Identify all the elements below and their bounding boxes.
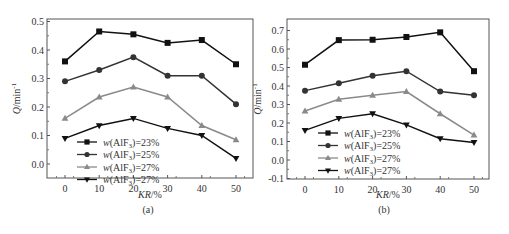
panel-caption: (b) — [378, 204, 390, 216]
circle-marker-icon — [437, 89, 443, 95]
circle-marker-icon — [370, 73, 376, 79]
triangle-down-marker-icon — [62, 136, 69, 142]
circle-marker-icon — [471, 92, 477, 98]
y-tick-label: 0.0 — [32, 159, 45, 170]
series-line — [65, 31, 236, 64]
figure: 0.00.10.20.30.40.501020304050KR/%Q/min-1… — [0, 0, 509, 234]
square-marker-icon — [336, 37, 342, 43]
series-line — [305, 71, 474, 95]
legend-entry: w(AlF3)=27% — [103, 174, 159, 187]
y-tick-label: 0.1 — [272, 136, 285, 147]
circle-marker-icon — [96, 67, 102, 73]
circle-marker-icon — [62, 78, 68, 84]
legend-entry: w(AlF3)=27% — [103, 162, 159, 175]
y-axis-label: Q/min-1 — [10, 82, 22, 114]
circle-marker-icon — [233, 101, 239, 107]
legend: w(AlF3)=23%w(AlF3)=25%w(AlF3)=27%w(AlF3)… — [318, 128, 400, 179]
chart-panel-b: -0.10.00.10.20.30.40.50.60.701020304050K… — [251, 19, 489, 216]
y-tick-label: 0.6 — [272, 44, 285, 55]
y-tick-label: 0.4 — [272, 81, 285, 92]
y-tick-label: 0.3 — [32, 73, 45, 84]
y-tick-label: 0.4 — [32, 45, 45, 56]
square-marker-icon — [302, 62, 308, 68]
legend: w(AlF3)=23%w(AlF3)=25%w(AlF3)=27%w(AlF3)… — [77, 137, 159, 188]
circle-marker-icon — [130, 54, 136, 60]
x-tick-label: 0 — [63, 183, 68, 194]
legend-entry: w(AlF3)=25% — [344, 140, 400, 153]
legend-entry: w(AlF3)=25% — [103, 149, 159, 162]
legend-entry: w(AlF3)=23% — [344, 128, 400, 141]
y-tick-label: 0.0 — [272, 155, 285, 166]
series-line — [305, 32, 474, 71]
square-marker-icon — [96, 28, 102, 34]
circle-marker-icon — [403, 68, 409, 74]
y-tick-label: 0.3 — [272, 99, 285, 110]
x-tick-label: 50 — [231, 183, 241, 194]
circle-marker-icon — [165, 73, 171, 79]
square-marker-icon — [437, 29, 443, 35]
triangle-down-marker-icon — [198, 133, 205, 139]
y-tick-label: 0.5 — [272, 62, 285, 73]
square-marker-icon — [199, 37, 205, 43]
triangle-down-marker-icon — [233, 156, 240, 162]
chart-panel-a: 0.00.10.20.30.40.501020304050KR/%Q/min-1… — [10, 16, 253, 216]
circle-marker-icon — [199, 73, 205, 79]
y-axis-label: Q/min-1 — [251, 83, 263, 115]
circle-marker-icon — [325, 143, 330, 148]
x-tick-label: 50 — [469, 184, 479, 195]
y-tick-label: 0.2 — [32, 102, 45, 113]
circle-marker-icon — [302, 88, 308, 94]
triangle-down-marker-icon — [471, 140, 478, 146]
x-tick-label: 10 — [334, 184, 344, 195]
x-axis-label: KR/% — [137, 189, 162, 200]
x-tick-label: 30 — [163, 183, 173, 194]
legend-entry: w(AlF3)=27% — [344, 165, 400, 178]
triangle-up-marker-icon — [130, 83, 137, 89]
circle-marker-icon — [336, 80, 342, 86]
y-tick-label: 0.1 — [32, 130, 45, 141]
triangle-down-marker-icon — [302, 128, 309, 134]
x-tick-label: 40 — [435, 184, 445, 195]
x-tick-label: 0 — [303, 184, 308, 195]
x-tick-label: 30 — [401, 184, 411, 195]
y-tick-label: 0.2 — [272, 118, 285, 129]
legend-entry: w(AlF3)=23% — [103, 137, 159, 150]
square-marker-icon — [62, 58, 68, 64]
panel-caption: (a) — [142, 204, 153, 216]
square-marker-icon — [370, 37, 376, 43]
series-line — [65, 87, 236, 140]
triangle-up-marker-icon — [403, 88, 410, 94]
triangle-up-marker-icon — [437, 110, 444, 116]
square-marker-icon — [233, 61, 239, 67]
circle-marker-icon — [84, 152, 89, 157]
triangle-up-marker-icon — [62, 115, 69, 121]
square-marker-icon — [165, 40, 171, 46]
square-marker-icon — [403, 34, 409, 40]
y-tick-label: -0.1 — [268, 173, 284, 184]
square-marker-icon — [130, 31, 136, 37]
x-axis-label: KR/% — [375, 189, 400, 200]
triangle-up-marker-icon — [471, 131, 478, 137]
y-tick-label: 0.5 — [32, 16, 45, 27]
square-marker-icon — [84, 139, 89, 144]
series-line — [65, 57, 236, 104]
square-marker-icon — [471, 68, 477, 74]
y-tick-label: 0.7 — [272, 25, 285, 36]
square-marker-icon — [325, 130, 330, 135]
legend-entry: w(AlF3)=27% — [344, 153, 400, 166]
x-tick-label: 40 — [197, 183, 207, 194]
